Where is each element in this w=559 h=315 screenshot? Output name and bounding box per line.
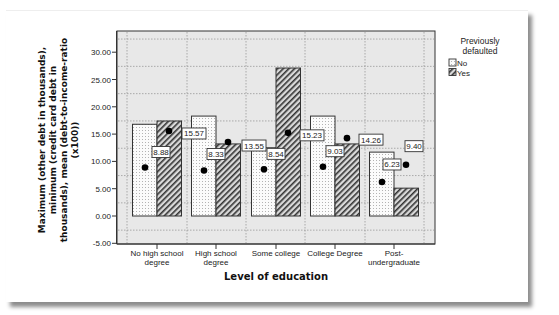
y-tick-label: 25.00 — [91, 76, 112, 85]
bar-yes — [157, 121, 182, 216]
bar-yes — [394, 188, 419, 216]
svg-text:No: No — [457, 59, 468, 68]
svg-text:15.23: 15.23 — [302, 131, 323, 140]
legend-item-yes: Yes — [449, 69, 470, 78]
svg-text:thousands), mean (debt-to-inco: thousands), mean (debt-to-income-ratio — [59, 38, 69, 242]
category-label: Post-undergraduate — [368, 249, 421, 267]
mean-marker — [261, 166, 268, 173]
svg-text:9.03: 9.03 — [327, 147, 343, 156]
mean-value-label: 8.88 — [152, 147, 170, 158]
svg-text:8.88: 8.88 — [153, 148, 169, 157]
mean-value-label: 15.23 — [300, 130, 324, 141]
y-tick-label: 0.00 — [95, 212, 111, 221]
category-label: Some college — [252, 249, 301, 258]
legend-swatch — [449, 69, 456, 76]
mean-marker — [166, 128, 173, 135]
mean-marker — [201, 167, 208, 174]
category-label: No high schooldegree — [131, 249, 184, 267]
y-tick-label: 20.00 — [91, 103, 112, 112]
mean-marker — [403, 161, 410, 168]
svg-text:8.33: 8.33 — [208, 150, 224, 159]
mean-value-label: 8.33 — [207, 149, 225, 160]
mean-value-label: 15.57 — [182, 128, 206, 139]
mean-value-label: 6.23 — [383, 159, 401, 170]
svg-text:15.57: 15.57 — [184, 129, 205, 138]
svg-text:14.26: 14.26 — [361, 136, 382, 145]
svg-text:(x100)): (x100)) — [70, 122, 80, 159]
y-tick-label: 10.00 — [91, 157, 112, 166]
y-tick-label: -5.00 — [93, 239, 112, 248]
legend-swatch — [449, 59, 456, 66]
mean-value-label: 14.26 — [359, 134, 383, 145]
y-tick-label: 15.00 — [91, 130, 112, 139]
category-label: College Degree — [307, 249, 363, 258]
svg-text:9.40: 9.40 — [406, 142, 422, 151]
y-axis: -5.000.005.0010.0015.0020.0025.0030.00 — [91, 31, 117, 248]
y-axis-title: Maximum (other debt in thousands),minimu… — [37, 38, 80, 242]
mean-marker — [320, 163, 327, 170]
mean-value-label: 8.54 — [267, 148, 285, 159]
svg-text:8.54: 8.54 — [268, 150, 284, 159]
legend-title: defaulted — [463, 46, 498, 56]
mean-marker — [379, 179, 386, 186]
svg-text:Yes: Yes — [457, 69, 470, 78]
mean-marker — [142, 164, 149, 171]
mean-value-label: 13.55 — [242, 140, 266, 151]
category-label: High schooldegree — [195, 249, 237, 267]
mean-marker — [344, 135, 351, 142]
high-low-mean-bar-chart: 8.888.338.549.036.2315.5713.5515.2314.26… — [0, 0, 559, 315]
legend: PreviouslydefaultedNoYes — [449, 36, 500, 78]
x-axis-title: Level of education — [224, 271, 328, 282]
bar-yes — [276, 68, 301, 216]
mean-value-label: 9.03 — [326, 146, 344, 157]
y-tick-label: 5.00 — [95, 185, 111, 194]
mean-value-label: 9.40 — [405, 141, 423, 152]
legend-title: Previously — [460, 36, 500, 46]
mean-marker — [285, 130, 292, 137]
svg-text:13.55: 13.55 — [244, 142, 265, 151]
legend-item-no: No — [449, 59, 468, 68]
svg-text:minimum (credit card debt in: minimum (credit card debt in — [48, 66, 58, 215]
x-axis: No high schooldegreeHigh schooldegreeSom… — [117, 244, 435, 267]
mean-marker — [225, 139, 232, 146]
svg-text:Maximum (other debt in thousan: Maximum (other debt in thousands), — [37, 47, 47, 233]
svg-text:6.23: 6.23 — [384, 160, 400, 169]
y-tick-label: 30.00 — [91, 48, 112, 57]
